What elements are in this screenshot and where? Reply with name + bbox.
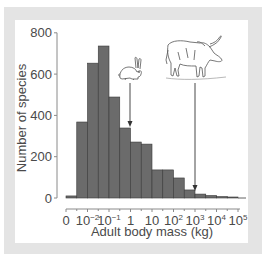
rabbit-arrow: [128, 83, 133, 127]
histogram-bar: [152, 170, 163, 198]
water-buffalo-arrow: [193, 83, 198, 191]
histogram-bar: [98, 46, 109, 198]
y-tick-label: 0: [45, 191, 52, 206]
histogram-bar: [66, 196, 77, 198]
bars: [66, 46, 246, 198]
histogram-chart: 0200400600800 010−210−1110102103104105 N…: [0, 0, 270, 254]
histogram-bar: [163, 170, 174, 198]
histogram-bar: [184, 190, 195, 198]
x-axis-title: Adult body mass (kg): [91, 224, 213, 239]
histogram-bar: [88, 63, 99, 198]
histogram-bar: [174, 178, 185, 198]
y-tick-label: 200: [30, 149, 52, 164]
y-tick-label: 800: [30, 25, 52, 40]
histogram-bar: [217, 197, 228, 198]
histogram-bar: [131, 142, 142, 198]
histogram-bar: [227, 197, 238, 198]
histogram-bar: [206, 196, 217, 198]
water-buffalo-icon: [166, 36, 226, 79]
histogram-bar: [77, 122, 88, 198]
rabbit-icon: [119, 57, 142, 80]
histogram-bar: [120, 128, 131, 198]
y-axis: 0200400600800: [30, 25, 57, 205]
y-axis-title: Number of species: [14, 63, 29, 172]
y-tick-label: 400: [30, 108, 52, 123]
histogram-bar: [195, 194, 206, 198]
x-tick-label: 0: [62, 213, 69, 228]
y-tick-label: 600: [30, 67, 52, 82]
histogram-bar: [141, 144, 152, 198]
x-tick-label: 105: [229, 213, 248, 228]
histogram-bar: [109, 97, 120, 198]
